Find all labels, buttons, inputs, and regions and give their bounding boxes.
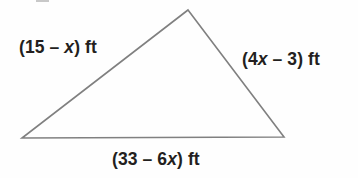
side-label-right-variable: x [258,49,268,69]
side-label-bottom-suffix: ) ft [177,149,200,169]
side-label-left-prefix: (15 – [19,37,64,57]
side-label-left-suffix: ) ft [74,37,97,57]
side-label-right: (4x – 3) ft [242,49,320,69]
side-label-left-variable: x [64,37,74,57]
side-label-bottom: (33 – 6x) ft [112,149,200,169]
side-label-left: (15 – x) ft [19,37,97,57]
side-label-right-suffix: – 3) ft [268,49,320,69]
side-label-bottom-prefix: (33 – 6 [112,149,167,169]
geometry-figure: (15 – x) ft (4x – 3) ft (33 – 6x) ft [0,0,358,178]
side-label-bottom-variable: x [167,149,177,169]
side-label-right-prefix: (4 [242,49,258,69]
triangle-outline [22,10,284,138]
